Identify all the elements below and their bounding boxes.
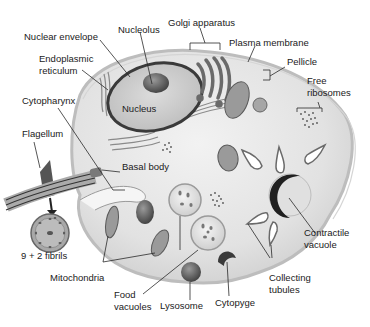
label-vacuoles: vacuoles — [114, 301, 152, 312]
label-free: Free — [307, 75, 327, 86]
label-basal-body: Basal body — [122, 161, 169, 172]
label-ribosomes: ribosomes — [307, 87, 351, 98]
label-cytopyge: Cytopyge — [215, 297, 255, 308]
label-tubules: tubules — [269, 284, 300, 295]
cell-diagram: Nuclear envelope Nucleolus Golgi apparat… — [0, 0, 370, 327]
label-vacuole: vacuole — [304, 239, 337, 250]
label-nucleus: Nucleus — [122, 103, 156, 114]
dark-vesicle — [136, 200, 154, 224]
label-lysosome: Lysosome — [160, 300, 203, 311]
label-pellicle: Pellicle — [287, 56, 317, 67]
lysosome-shape — [181, 262, 201, 282]
small-vesicle — [253, 98, 267, 112]
label-nuclear-envelope: Nuclear envelope — [24, 31, 98, 42]
label-collecting: Collecting — [269, 272, 311, 283]
label-plasma-membrane: Plasma membrane — [229, 37, 309, 48]
fibrils-cross-section — [31, 214, 69, 252]
label-cytopharynx: Cytopharynx — [22, 95, 75, 106]
label-flagellum: Flagellum — [22, 128, 63, 139]
label-reticulum: reticulum — [39, 65, 78, 76]
label-golgi-apparatus: Golgi apparatus — [168, 17, 235, 28]
label-food: Food — [114, 289, 136, 300]
label-nucleolus: Nucleolus — [118, 24, 160, 35]
label-contractile: Contractile — [304, 227, 349, 238]
label-fibrils: 9 + 2 fibrils — [21, 250, 67, 261]
label-mitochondria: Mitochondria — [50, 272, 104, 283]
label-endoplasmic: Endoplasmic — [39, 53, 93, 64]
nucleolus-shape — [143, 73, 169, 93]
